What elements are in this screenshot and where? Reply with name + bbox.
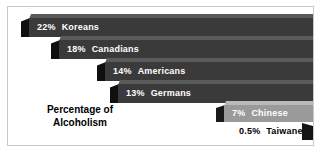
bars-layer: 22%Koreans 18%Canadians 14%Americans (0, 0, 321, 153)
bar-value-koreans: 22% (37, 22, 56, 32)
bar-row-canadians[interactable]: 18%Canadians (51, 40, 313, 59)
bar-front-face-koreans: 22%Koreans (29, 18, 313, 37)
bar-row-americans[interactable]: 14%Americans (97, 62, 313, 81)
bar-value-americans: 14% (113, 66, 132, 76)
bar-category-germans: Germans (151, 88, 191, 98)
bar-row-germans[interactable]: 13%Germans (110, 84, 313, 103)
alcoholism-bar-chart: 22%Koreans 18%Canadians 14%Americans (0, 0, 321, 153)
bar-category-koreans: Koreans (62, 22, 99, 32)
bar-row-koreans[interactable]: 22%Koreans (21, 18, 313, 37)
bar-category-americans: Americans (138, 66, 186, 76)
bar-front-face-taiwanese: 0.5%Taiwanese (184, 123, 313, 140)
bar-category-canadians: Canadians (92, 44, 139, 54)
caption-line-2: Alcoholism (20, 117, 140, 130)
bar-front-face-chinese: 7%Chinese (224, 105, 313, 122)
bar-label-americans: 14%Americans (113, 67, 185, 76)
chart-caption: Percentage of Alcoholism (20, 104, 140, 129)
bar-value-germans: 13% (126, 88, 145, 98)
bar-value-chinese: 7% (232, 108, 245, 118)
bar-label-chinese: 7%Chinese (232, 109, 288, 118)
bar-front-face-germans: 13%Germans (118, 84, 313, 103)
bar-label-germans: 13%Germans (126, 89, 191, 98)
bar-value-canadians: 18% (67, 44, 86, 54)
bar-category-chinese: Chinese (251, 108, 287, 118)
bar-row-taiwanese[interactable]: 0.5%Taiwanese (176, 123, 313, 140)
bar-front-face-americans: 14%Americans (105, 62, 313, 81)
bar-label-koreans: 22%Koreans (37, 23, 99, 32)
bar-front-face-canadians: 18%Canadians (59, 40, 313, 59)
bar-row-chinese[interactable]: 7%Chinese (216, 105, 313, 122)
caption-line-1: Percentage of (20, 104, 140, 117)
bar-value-taiwanese: 0.5% (239, 126, 260, 136)
bar-label-canadians: 18%Canadians (67, 45, 139, 54)
bar-label-taiwanese: 0.5%Taiwanese (239, 127, 313, 136)
